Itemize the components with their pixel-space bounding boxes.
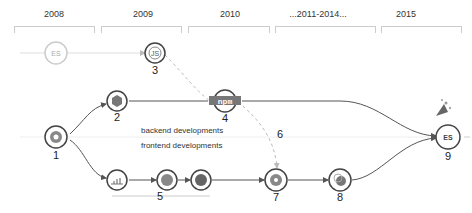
node-number-9: 9 <box>438 150 458 162</box>
node-8 <box>329 169 351 191</box>
node-number-1: 1 <box>46 149 66 161</box>
node-number-5: 5 <box>150 190 170 202</box>
node-number-8: 8 <box>330 191 350 203</box>
node-5c <box>191 170 211 190</box>
node-2 <box>107 91 127 111</box>
frontend-lane-label: frontend developments <box>141 141 222 150</box>
svg-text:ES: ES <box>51 50 61 57</box>
node-9: ES <box>436 125 460 149</box>
node-1 <box>45 126 67 148</box>
node-3: JS <box>145 43 165 63</box>
svg-text:ES: ES <box>443 134 453 141</box>
backend-lane-label: backend developments <box>141 126 223 135</box>
svg-text:JS: JS <box>151 50 160 57</box>
node-7 <box>265 169 287 191</box>
node-4: npm <box>209 90 241 112</box>
node-5b <box>157 170 177 190</box>
node-number-6: 6 <box>270 128 290 140</box>
node-number-3: 3 <box>145 64 165 76</box>
timeline-diagram: ES JS npm ES <box>0 0 472 213</box>
svg-text:npm: npm <box>218 97 233 106</box>
node-number-7: 7 <box>266 191 286 203</box>
node-number-2: 2 <box>107 111 127 123</box>
node-5a <box>107 170 127 190</box>
node-es-origin: ES <box>45 42 67 64</box>
node-number-4: 4 <box>215 112 235 124</box>
party-popper-icon <box>436 99 451 116</box>
